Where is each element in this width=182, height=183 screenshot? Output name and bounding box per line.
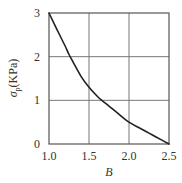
y-tick-labels: 0123 [34,6,40,151]
x-tick-labels: 1.01.52.02.5 [42,149,177,163]
chart: 1.01.52.02.5 0123 B σp(KPa) [0,0,182,183]
y-tick-label: 1 [34,93,40,107]
x-tick-label: 2.0 [122,149,137,163]
x-tick-label: 1.5 [82,149,97,163]
data-curve [49,13,169,144]
y-tick-label: 2 [34,50,40,64]
grid-lines [49,13,169,144]
x-axis-label: B [105,165,113,179]
x-tick-label: 2.5 [162,149,177,163]
y-tick-label: 3 [34,6,40,20]
x-tick-label: 1.0 [42,149,57,163]
plot-frame [49,13,169,144]
y-axis-label-unit: (KPa) [6,59,20,88]
y-axis-label: σp(KPa) [6,59,22,98]
y-tick-label: 0 [34,137,40,151]
